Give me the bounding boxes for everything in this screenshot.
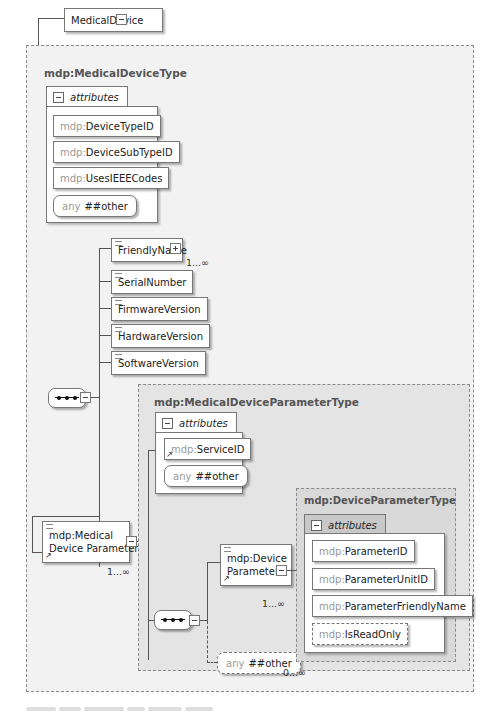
type-title: mdp:MedicalDeviceType <box>44 67 187 79</box>
collapse-icon[interactable] <box>126 536 137 547</box>
attribute-device-subtype-id[interactable]: mdp:DeviceSubTypeID <box>53 141 180 163</box>
attribute-parameter-id[interactable]: mdp:ParameterID <box>312 540 415 562</box>
connector <box>38 18 64 19</box>
element-serial-number[interactable]: SerialNumber <box>111 270 193 294</box>
attributes-tab[interactable]: attributes <box>304 514 386 535</box>
collapse-icon[interactable] <box>162 418 173 429</box>
reference-arrow-icon: ↗ <box>45 549 52 562</box>
attributes-tab[interactable]: attributes <box>155 412 237 433</box>
cardinality: 1...∞ <box>107 566 130 577</box>
blurred-caption <box>26 696 236 702</box>
collapse-icon[interactable] <box>311 520 322 531</box>
optional-connector <box>207 662 217 663</box>
element-hardware-version[interactable]: HardwareVersion <box>111 324 210 348</box>
connector <box>99 248 100 566</box>
collapse-icon[interactable] <box>116 14 127 25</box>
expand-icon[interactable] <box>170 243 181 254</box>
any-attribute[interactable]: any##other <box>164 465 248 487</box>
any-attribute[interactable]: any##other <box>53 195 137 217</box>
reference-arrow-icon: ↗ <box>223 572 230 585</box>
attribute-uses-ieee-codes[interactable]: mdp:UsesIEEECodes <box>53 167 169 189</box>
sequence-compositor[interactable] <box>154 610 192 630</box>
element-medical-device-parameter[interactable]: mdp:Medical Device Parameter ↗ <box>42 521 130 563</box>
type-title: mdp:MedicalDeviceParameterType <box>154 396 359 408</box>
attribute-parameter-unit-id[interactable]: mdp:ParameterUnitID <box>312 568 435 590</box>
optional-connector <box>207 621 208 663</box>
connector <box>91 397 99 398</box>
element-firmware-version[interactable]: FirmwareVersion <box>111 297 208 321</box>
collapse-icon[interactable] <box>53 92 64 103</box>
attributes-tab[interactable]: attributes <box>46 86 128 107</box>
element-software-version[interactable]: SoftwareVersion <box>111 351 206 375</box>
reference-arrow-icon: ↗ <box>166 450 173 459</box>
cardinality: 0...∞ <box>283 667 306 678</box>
cardinality: 1...∞ <box>186 257 209 268</box>
element-medical-device[interactable]: MedicalDevice <box>64 8 163 32</box>
attribute-service-id[interactable]: mdp:ServiceID ↗ <box>164 438 251 460</box>
collapse-icon[interactable] <box>189 615 200 626</box>
collapse-icon[interactable] <box>276 565 287 576</box>
collapse-icon[interactable] <box>80 392 91 403</box>
type-title: mdp:DeviceParameterType <box>304 495 456 506</box>
cardinality: 1...∞ <box>262 598 285 609</box>
attribute-is-read-only[interactable]: mdp:IsReadOnly <box>312 623 408 645</box>
attribute-device-type-id[interactable]: mdp:DeviceTypeID <box>53 115 161 137</box>
element-name: MedicalDevice <box>71 15 144 26</box>
attribute-parameter-friendly-name[interactable]: mdp:ParameterFriendlyName <box>312 595 473 617</box>
